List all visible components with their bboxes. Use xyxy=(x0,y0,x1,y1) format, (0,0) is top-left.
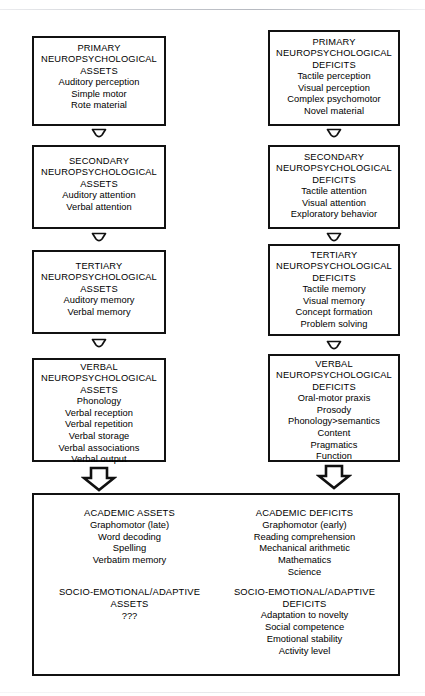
group-item: Verbatim memory xyxy=(42,554,217,566)
box-title-line: VERBAL xyxy=(270,359,398,370)
box-item: Verbal associations xyxy=(34,443,164,455)
box-title-line: ASSETS xyxy=(34,284,164,295)
box-title-line: ASSETS xyxy=(34,179,164,190)
box-title-line: VERBAL xyxy=(34,362,164,373)
group-item: Graphomotor (early) xyxy=(217,519,392,531)
box-item: Prosody xyxy=(270,405,398,417)
box-primary-assets: PRIMARY NEUROPSYCHOLOGICAL ASSETS Audito… xyxy=(32,36,166,126)
box-item: Complex psychomotor xyxy=(270,94,398,106)
box-item: Visual memory xyxy=(270,296,398,308)
group-item: ??? xyxy=(42,610,217,622)
box-item: Auditory memory xyxy=(34,295,164,307)
scan-artifact-line-bottom xyxy=(0,692,425,693)
academic-deficits-group: ACADEMIC DEFICITS Graphomotor (early) Re… xyxy=(217,507,392,578)
box-title-line: DEFICITS xyxy=(270,175,398,186)
box-title-line: DEFICITS xyxy=(270,273,398,284)
box-primary-deficits: PRIMARY NEUROPSYCHOLOGICAL DEFICITS Tact… xyxy=(268,30,400,126)
box-title-line: NEUROPSYCHOLOGICAL xyxy=(270,163,398,174)
box-item: Function xyxy=(270,451,398,463)
down-arrow-icon xyxy=(326,340,342,351)
box-item: Verbal memory xyxy=(34,307,164,319)
scan-artifact-line-top xyxy=(0,9,425,10)
box-title-line: PRIMARY xyxy=(270,37,398,48)
box-title-line: NEUROPSYCHOLOGICAL xyxy=(34,167,164,178)
down-arrow-icon xyxy=(91,128,107,139)
box-title-line: NEUROPSYCHOLOGICAL xyxy=(270,261,398,272)
down-arrow-icon xyxy=(326,232,342,243)
box-title-line: PRIMARY xyxy=(34,43,164,54)
group-item: Spelling xyxy=(42,542,217,554)
group-title: SOCIO-EMOTIONAL/ADAPTIVE xyxy=(42,586,217,598)
box-item: Verbal output xyxy=(34,454,164,466)
down-arrow-icon xyxy=(326,128,342,139)
box-item: Simple motor xyxy=(34,89,164,101)
group-item: Mechanical arithmetic xyxy=(217,542,392,554)
box-item: Problem solving xyxy=(270,319,398,331)
group-item: Word decoding xyxy=(42,531,217,543)
group-item: Social competence xyxy=(217,621,392,633)
outcome-column-assets: ACADEMIC ASSETS Graphomotor (late) Word … xyxy=(42,507,217,621)
box-title-line: SECONDARY xyxy=(270,152,398,163)
box-item: Phonology xyxy=(34,396,164,408)
box-title-line: ASSETS xyxy=(34,385,164,396)
group-item: Activity level xyxy=(217,645,392,657)
academic-assets-group: ACADEMIC ASSETS Graphomotor (late) Word … xyxy=(42,507,217,566)
box-title-line: TERTIARY xyxy=(34,261,164,272)
socio-emotional-deficits-group: SOCIO-EMOTIONAL/ADAPTIVE DEFICITS Adapta… xyxy=(217,586,392,657)
group-item: Science xyxy=(217,566,392,578)
box-item: Oral-motor praxis xyxy=(270,393,398,405)
group-title: SOCIO-EMOTIONAL/ADAPTIVE xyxy=(217,586,392,598)
box-title-line: DEFICITS xyxy=(270,60,398,71)
box-tertiary-assets: TERTIARY NEUROPSYCHOLOGICAL ASSETS Audit… xyxy=(32,250,166,334)
box-item: Exploratory behavior xyxy=(270,209,398,221)
box-title-line: DEFICITS xyxy=(270,382,398,393)
outcome-panel: ACADEMIC ASSETS Graphomotor (late) Word … xyxy=(32,493,400,676)
group-title: ACADEMIC ASSETS xyxy=(42,507,217,519)
box-item: Verbal attention xyxy=(34,202,164,214)
group-item: Graphomotor (late) xyxy=(42,519,217,531)
box-item: Verbal reception xyxy=(34,408,164,420)
box-title-line: NEUROPSYCHOLOGICAL xyxy=(34,54,164,65)
group-item: Reading comprehension xyxy=(217,531,392,543)
large-down-arrow-icon xyxy=(316,464,352,490)
box-item: Verbal repetition xyxy=(34,419,164,431)
box-verbal-assets: VERBAL NEUROPSYCHOLOGICAL ASSETS Phonolo… xyxy=(32,358,166,462)
box-tertiary-deficits: TERTIARY NEUROPSYCHOLOGICAL DEFICITS Tac… xyxy=(268,244,400,336)
down-arrow-icon xyxy=(91,338,107,349)
box-item: Auditory perception xyxy=(34,77,164,89)
large-down-arrow-icon xyxy=(81,466,117,492)
box-item: Tactile memory xyxy=(270,284,398,296)
box-title-line: NEUROPSYCHOLOGICAL xyxy=(270,370,398,381)
group-title: ASSETS xyxy=(42,598,217,610)
flow-diagram: PRIMARY NEUROPSYCHOLOGICAL ASSETS Audito… xyxy=(0,0,425,696)
down-arrow-icon xyxy=(91,232,107,243)
box-secondary-assets: SECONDARY NEUROPSYCHOLOGICAL ASSETS Audi… xyxy=(32,145,166,229)
box-item: Tactile perception xyxy=(270,71,398,83)
group-title: ACADEMIC DEFICITS xyxy=(217,507,392,519)
box-title-line: NEUROPSYCHOLOGICAL xyxy=(34,272,164,283)
box-secondary-deficits: SECONDARY NEUROPSYCHOLOGICAL DEFICITS Ta… xyxy=(268,145,400,229)
box-item: Pragmatics xyxy=(270,440,398,452)
outcome-column-deficits: ACADEMIC DEFICITS Graphomotor (early) Re… xyxy=(217,507,392,657)
box-item: Verbal storage xyxy=(34,431,164,443)
group-item: Adaptation to novelty xyxy=(217,609,392,621)
box-item: Visual attention xyxy=(270,198,398,210)
box-title-line: TERTIARY xyxy=(270,250,398,261)
box-title-line: NEUROPSYCHOLOGICAL xyxy=(34,373,164,384)
box-title-line: ASSETS xyxy=(34,66,164,77)
box-item: Tactile attention xyxy=(270,186,398,198)
box-item: Auditory attention xyxy=(34,190,164,202)
box-title-line: NEUROPSYCHOLOGICAL xyxy=(270,48,398,59)
group-title: DEFICITS xyxy=(217,598,392,610)
box-item: Rote material xyxy=(34,100,164,112)
group-item: Mathematics xyxy=(217,554,392,566)
box-item: Phonology>semantics xyxy=(270,416,398,428)
box-item: Visual perception xyxy=(270,83,398,95)
box-item: Novel material xyxy=(270,106,398,118)
box-verbal-deficits: VERBAL NEUROPSYCHOLOGICAL DEFICITS Oral-… xyxy=(268,354,400,462)
socio-emotional-assets-group: SOCIO-EMOTIONAL/ADAPTIVE ASSETS ??? xyxy=(42,586,217,621)
box-item: Concept formation xyxy=(270,307,398,319)
box-title-line: SECONDARY xyxy=(34,156,164,167)
box-item: Content xyxy=(270,428,398,440)
group-item: Emotional stability xyxy=(217,633,392,645)
